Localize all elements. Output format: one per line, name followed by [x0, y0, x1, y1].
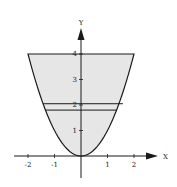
parabola-region-chart: -2-1121234 X Y — [0, 0, 177, 187]
y-tick-label: 4 — [73, 50, 78, 58]
x-tick-label: -1 — [51, 161, 58, 169]
x-axis-label: X — [163, 153, 168, 161]
y-tick-label: 2 — [73, 101, 77, 109]
y-tick-label: 3 — [73, 76, 77, 84]
y-axis-label: Y — [78, 19, 84, 27]
y-axis-arrow-icon — [78, 28, 85, 40]
x-tick-label: -2 — [25, 161, 32, 169]
x-axis-arrow-icon — [146, 153, 158, 160]
x-tick-label: 2 — [132, 161, 136, 169]
x-tick-label: 1 — [105, 161, 109, 169]
y-tick-label: 1 — [73, 127, 77, 135]
